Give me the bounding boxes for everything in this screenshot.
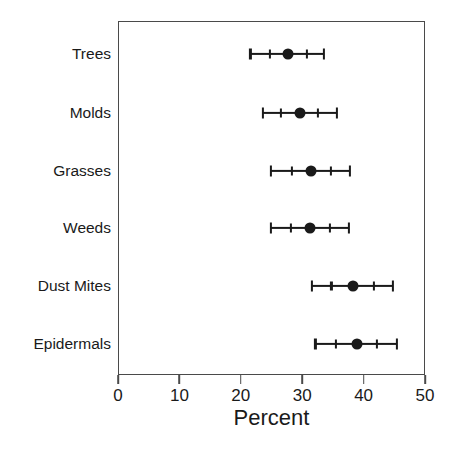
inner-lower-tick bbox=[290, 224, 292, 233]
x-tick bbox=[363, 375, 365, 384]
ci-lower-cap bbox=[249, 49, 251, 60]
point-estimate-marker bbox=[305, 166, 316, 177]
inner-upper-tick bbox=[373, 282, 375, 291]
ci-lower-cap bbox=[270, 223, 272, 234]
x-tick bbox=[424, 375, 426, 384]
x-tick bbox=[179, 375, 181, 384]
x-tick-label: 10 bbox=[170, 387, 189, 404]
x-tick-label: 40 bbox=[354, 387, 373, 404]
ci-upper-cap bbox=[396, 339, 398, 350]
x-tick-label: 30 bbox=[293, 387, 312, 404]
inner-lower-tick bbox=[335, 340, 337, 349]
inner-upper-tick bbox=[330, 167, 332, 176]
inner-lower-tick bbox=[269, 50, 271, 59]
category-label-grasses: Grasses bbox=[0, 163, 111, 179]
inner-upper-tick bbox=[376, 340, 378, 349]
inner-lower-tick bbox=[290, 167, 292, 176]
point-estimate-marker bbox=[304, 223, 315, 234]
x-tick bbox=[301, 375, 303, 384]
dot-plot-figure: TreesMoldsGrassesWeedsDust MitesEpiderma… bbox=[0, 0, 458, 451]
ci-lower-cap bbox=[311, 281, 313, 292]
ci-upper-cap bbox=[348, 223, 350, 234]
ci-lower-cap bbox=[262, 108, 264, 119]
x-tick bbox=[240, 375, 242, 384]
inner-upper-tick bbox=[317, 109, 319, 118]
inner-lower-tick bbox=[280, 109, 282, 118]
point-estimate-marker bbox=[283, 49, 294, 60]
x-tick-label: 0 bbox=[113, 387, 122, 404]
category-label-trees: Trees bbox=[0, 46, 111, 62]
ci-lower-cap bbox=[314, 339, 316, 350]
point-estimate-marker bbox=[294, 108, 305, 119]
inner-lower-tick bbox=[330, 282, 332, 291]
ci-upper-cap bbox=[323, 49, 325, 60]
ci-upper-cap bbox=[392, 281, 394, 292]
x-tick-label: 50 bbox=[416, 387, 435, 404]
x-tick bbox=[117, 375, 119, 384]
point-estimate-marker bbox=[351, 339, 362, 350]
category-label-weeds: Weeds bbox=[0, 220, 111, 236]
x-axis-title: Percent bbox=[118, 405, 425, 431]
inner-upper-tick bbox=[306, 50, 308, 59]
ci-upper-cap bbox=[349, 166, 351, 177]
ci-lower-cap bbox=[270, 166, 272, 177]
category-label-molds: Molds bbox=[0, 105, 111, 121]
category-label-epidermals: Epidermals bbox=[0, 336, 111, 352]
point-estimate-marker bbox=[347, 281, 358, 292]
category-label-dust-mites: Dust Mites bbox=[0, 278, 111, 294]
plot-area: TreesMoldsGrassesWeedsDust MitesEpiderma… bbox=[118, 21, 425, 375]
ci-upper-cap bbox=[336, 108, 338, 119]
inner-upper-tick bbox=[329, 224, 331, 233]
x-tick-label: 20 bbox=[231, 387, 250, 404]
